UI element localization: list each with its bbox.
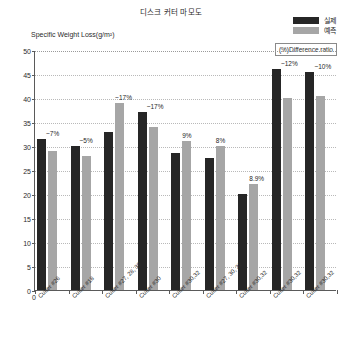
chart-page: 디스크 커터 마모도 실제 예측 Specific Weight Loss(g/…	[0, 0, 342, 358]
legend-swatch-actual	[293, 17, 319, 24]
bar-actual	[71, 146, 80, 290]
difference-ratio-annotation: ~7%	[46, 130, 59, 137]
bar-predicted	[316, 96, 325, 290]
x-axis-tick-mark	[203, 290, 204, 294]
difference-ratio-annotation: ~17%	[147, 103, 164, 110]
x-axis-tick-mark	[69, 290, 70, 294]
difference-ratio-annotation: 8%	[216, 137, 225, 144]
y-axis-title: Specific Weight Loss(g/m²)	[31, 31, 115, 38]
y-axis-tick-label: 50	[23, 48, 31, 55]
x-axis-tick-mark	[236, 290, 237, 294]
bar-predicted	[115, 103, 124, 290]
bar-predicted	[48, 151, 57, 290]
bar-predicted	[149, 127, 158, 290]
legend-swatch-predicted	[293, 27, 319, 34]
bar-actual	[205, 158, 214, 290]
x-axis-tick-mark	[337, 290, 338, 294]
y-axis-tick-label: 0	[27, 288, 31, 295]
difference-ratio-annotation: ~17%	[115, 94, 132, 101]
y-axis-tick-label: 15	[23, 216, 31, 223]
y-axis-tick-label: 40	[23, 96, 31, 103]
bar-group: 8%	[203, 51, 237, 290]
x-axis-labels: Cutter #26Cutter #18Cutter #27, 28, 30Cu…	[34, 295, 336, 357]
bar-group: ~17%	[136, 51, 170, 290]
x-axis-tick-mark	[169, 290, 170, 294]
bar-actual	[238, 194, 247, 290]
difference-ratio-annotation: ~12%	[281, 60, 298, 67]
page-title: 디스크 커터 마모도	[0, 6, 342, 17]
legend-item-actual: 실제	[293, 17, 336, 24]
x-axis-tick-mark	[303, 290, 304, 294]
difference-ratio-annotation: 8.9%	[249, 175, 264, 182]
y-axis-tick-label: 5	[27, 264, 31, 271]
legend-item-predicted: 예측	[293, 27, 336, 34]
y-axis-tick-label: 30	[23, 144, 31, 151]
bar-group: ~7%	[35, 51, 69, 290]
difference-ratio-annotation: ~5%	[80, 137, 93, 144]
bar-group: ~17%	[102, 51, 136, 290]
x-axis-tick-mark	[270, 290, 271, 294]
x-axis-tick-mark	[136, 290, 137, 294]
bar-group: ~10%	[303, 51, 337, 290]
plot-area: 05101520253035404550~7%~5%~17%~17%9%8%8.…	[34, 51, 336, 291]
bar-actual	[37, 139, 46, 290]
bar-actual	[272, 69, 281, 290]
bar-predicted	[82, 156, 91, 290]
bar-actual	[171, 153, 180, 290]
difference-ratio-annotation: ~10%	[314, 63, 331, 70]
legend-label-predicted: 예측	[324, 27, 336, 34]
difference-ratio-annotation: 9%	[182, 132, 191, 139]
bar-group: ~12%	[270, 51, 304, 290]
bar-group: ~5%	[69, 51, 103, 290]
y-axis-tick-label: 25	[23, 168, 31, 175]
chart-legend: 실제 예측	[293, 17, 336, 34]
plot-inner: 05101520253035404550~7%~5%~17%~17%9%8%8.…	[35, 51, 336, 290]
y-axis-tick-label: 35	[23, 120, 31, 127]
bar-actual	[104, 132, 113, 290]
bar-group: 8.9%	[236, 51, 270, 290]
bar-predicted	[283, 98, 292, 290]
y-axis-tick-label: 20	[23, 192, 31, 199]
y-axis-tick-label: 45	[23, 72, 31, 79]
bar-predicted	[182, 141, 191, 290]
y-axis-tick-label: 10	[23, 240, 31, 247]
bar-predicted	[216, 146, 225, 290]
bar-group: 9%	[169, 51, 203, 290]
x-axis-tick-mark	[102, 290, 103, 294]
bar-actual	[305, 72, 314, 290]
legend-label-actual: 실제	[324, 17, 336, 24]
